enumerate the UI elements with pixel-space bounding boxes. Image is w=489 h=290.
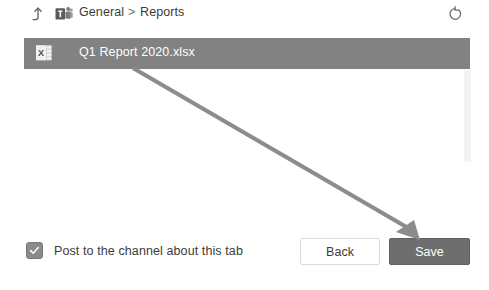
save-button[interactable]: Save	[389, 238, 470, 265]
excel-file-icon: X	[36, 44, 52, 62]
dialog-footer: Post to the channel about this tab Back …	[0, 232, 489, 290]
back-button[interactable]: Back	[300, 238, 380, 265]
list-item[interactable]: X Q1 Report 2020.xlsx	[24, 38, 470, 69]
file-name-label: Q1 Report 2020.xlsx	[79, 45, 195, 59]
arrow-up-icon[interactable]	[29, 5, 47, 23]
post-to-channel-checkbox[interactable]	[26, 242, 43, 259]
vertical-scrollbar[interactable]	[464, 70, 471, 162]
refresh-icon[interactable]	[446, 5, 464, 23]
post-to-channel-row[interactable]: Post to the channel about this tab	[26, 242, 243, 259]
file-list: X Q1 Report 2020.xlsx	[0, 32, 489, 222]
checkmark-icon	[29, 245, 40, 256]
breadcrumb: General > Reports	[0, 0, 489, 32]
breadcrumb-item-general[interactable]: General	[79, 5, 124, 19]
breadcrumb-separator: >	[128, 5, 135, 19]
teams-logo-icon	[55, 6, 73, 22]
breadcrumb-item-reports[interactable]: Reports	[140, 5, 184, 19]
post-to-channel-label: Post to the channel about this tab	[54, 244, 243, 258]
file-picker-dialog: General > Reports X	[0, 0, 489, 290]
svg-text:X: X	[38, 48, 44, 58]
